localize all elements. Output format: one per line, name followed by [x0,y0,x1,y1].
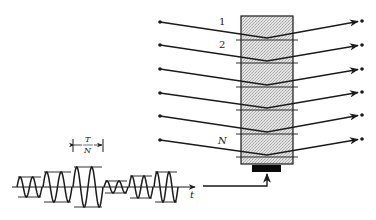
time-axis-label: t [190,189,195,200]
ray-endpoint [360,67,364,71]
ray-endpoint [158,91,162,95]
ray-endpoint [158,67,162,71]
ray-endpoint [158,138,162,142]
ray-endpoint [158,114,162,118]
ray-endpoint [360,43,364,47]
ray-label-2: 2 [219,39,225,50]
ray-label-1: 1 [219,16,225,27]
ray-endpoint [360,113,364,117]
transducer [252,165,281,172]
delay-line-diagram: 1 2 N t T N [0,0,376,220]
period-bracket: T N [73,135,103,155]
ray-label-n: N [217,135,228,146]
drive-arrow [203,174,267,186]
ray-endpoint [158,43,162,47]
bracket-denominator: N [83,146,92,155]
ray-endpoint [360,19,364,23]
ray-endpoint [360,137,364,141]
ray-endpoint [360,90,364,94]
ray-endpoint [158,20,162,24]
bracket-numerator: T [85,135,91,144]
